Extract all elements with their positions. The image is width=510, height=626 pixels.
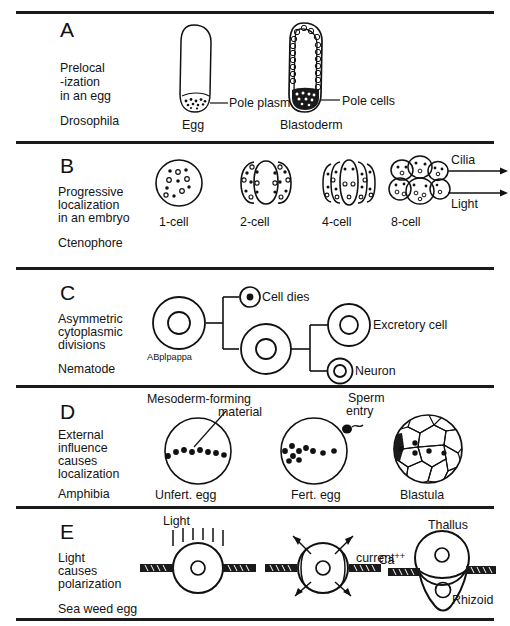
panel-a-desc-line-3: in an egg <box>60 90 111 104</box>
panel-b-caption-1-cell: 1-cell <box>159 215 189 229</box>
drosophila-egg-drawing <box>170 22 230 117</box>
drosophila-blastoderm-drawing <box>278 20 340 118</box>
panel-d: D External influence causes localization… <box>0 385 510 506</box>
panel-e-desc-line-3: polarization <box>58 578 121 592</box>
panel-d-organism: Amphibia <box>58 488 110 502</box>
figure-root: A Prelocal -ization in an egg Drosophila… <box>0 0 510 626</box>
amphibia-fertilized-egg-drawing <box>268 409 378 487</box>
panel-d-annotation-sperm-line-1: Sperm <box>348 391 385 405</box>
panel-d-annotation-mesoderm-line-1: Mesoderm-forming <box>147 392 251 406</box>
ctenophore-4-cell-drawing <box>318 155 380 211</box>
amphibia-blastula-drawing <box>388 409 468 487</box>
panel-e-letter: E <box>60 520 75 544</box>
panel-b-caption-8-cell: 8-cell <box>391 215 421 229</box>
panel-c: C Asymmetric cytoplasmic divisions Nemat… <box>0 267 510 385</box>
sperm-icon <box>342 425 363 434</box>
panel-d-caption-fert-egg: Fert. egg <box>291 488 341 502</box>
panel-c-letter: C <box>60 281 76 305</box>
panel-a-letter: A <box>60 18 75 42</box>
ctenophore-1-cell-drawing <box>152 156 206 210</box>
panel-a-pole-cells-label: Pole cells <box>342 94 395 108</box>
amphibia-unfertilized-egg-drawing <box>148 409 248 487</box>
panel-c-fate-neuron: Neuron <box>355 364 396 378</box>
substrate-left <box>388 568 420 576</box>
panel-e-organism: Sea weed egg <box>58 603 137 617</box>
panel-b-caption-2-cell: 2-cell <box>240 215 270 229</box>
panel-a-caption-blastoderm: Blastoderm <box>280 118 343 132</box>
panel-e-label-rhizoid: Rhizoid <box>452 593 493 607</box>
panel-c-organism: Nematode <box>58 363 115 377</box>
panel-b-organism: Ctenophore <box>58 237 123 251</box>
substrate-right <box>222 564 256 572</box>
panel-d-letter: D <box>60 400 76 424</box>
panel-a-desc-line-2: -ization <box>60 76 100 90</box>
seaweed-egg-light-drawing <box>140 528 270 598</box>
panel-e-label-light: Light <box>163 514 190 528</box>
panel-a-caption-egg: Egg <box>182 118 204 132</box>
nematode-founder-cell-drawing <box>150 294 208 352</box>
panel-a-desc-line-1: Prelocal <box>60 62 105 76</box>
panel-c-fate-cell-dies: Cell dies <box>262 290 310 304</box>
panel-b-desc-line-3: in an embryo <box>58 212 130 226</box>
panel-d-caption-blastula: Blastula <box>400 488 444 502</box>
panel-c-founder-label: ABplpappa <box>147 352 192 362</box>
substrate-left <box>265 564 297 572</box>
panel-c-fate-excretory-cell: Excretory cell <box>373 318 447 332</box>
panel-e: E Light causes polarization Sea weed egg… <box>0 506 510 626</box>
panel-a-organism: Drosophila <box>60 115 119 129</box>
ctenophore-8-cell-drawing <box>386 153 456 213</box>
panel-b-label-cilia: Cilia <box>451 153 475 167</box>
substrate-left <box>140 564 174 572</box>
ctenophore-2-cell-drawing <box>235 156 297 210</box>
substrate-right <box>466 566 496 574</box>
panel-d-caption-unfert-egg: Unfert. egg <box>155 488 216 502</box>
panel-b-caption-4-cell: 4-cell <box>322 215 352 229</box>
panel-b-letter: B <box>60 154 75 178</box>
panel-b-label-light: Light <box>451 197 478 211</box>
panel-d-desc-line-4: localization <box>58 468 119 482</box>
panel-c-desc-line-3: divisions <box>58 339 106 353</box>
panel-a: A Prelocal -ization in an egg Drosophila… <box>0 0 510 141</box>
panel-b: B Progressive localization in an embryo … <box>0 141 510 267</box>
